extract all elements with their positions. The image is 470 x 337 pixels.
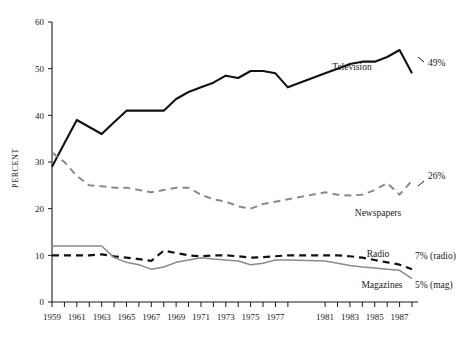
x-tick-label-1963: 1963 xyxy=(93,312,112,322)
x-tick-labels: 1959196119631965196719691971197319751977… xyxy=(43,312,409,322)
y-tick-label-60: 60 xyxy=(35,17,45,27)
data-series-group xyxy=(52,50,412,279)
y-tick-label-10: 10 xyxy=(35,251,45,261)
newspapers-leader-line xyxy=(418,181,424,186)
x-tick-label-1971: 1971 xyxy=(192,312,210,322)
radio-end-value: 7% (radio) xyxy=(415,251,456,262)
television-leader-line xyxy=(418,57,424,62)
y-tick-label-50: 50 xyxy=(35,64,45,74)
x-tick-label-1985: 1985 xyxy=(366,312,385,322)
y-tick-label-20: 20 xyxy=(35,204,45,214)
x-tick-label-1981: 1981 xyxy=(316,312,334,322)
y-tick-marks xyxy=(48,22,52,302)
x-tick-label-1965: 1965 xyxy=(117,312,136,322)
magazines-end-value: 5% (mag) xyxy=(415,280,453,291)
chart-canvas: 0102030405060 PERCENT 195919611963196519… xyxy=(0,0,470,337)
x-axis-group: 1959196119631965196719691971197319751977… xyxy=(43,302,418,322)
television-series-label: Television xyxy=(332,62,372,72)
y-axis-title: PERCENT xyxy=(11,148,20,188)
x-tick-label-1973: 1973 xyxy=(217,312,236,322)
series-line-magazines xyxy=(52,246,412,279)
media-source-line-chart: 0102030405060 PERCENT 195919611963196519… xyxy=(0,0,470,337)
series-inline-labels: TelevisionNewspapersRadioMagazines xyxy=(332,62,403,290)
x-tick-label-1983: 1983 xyxy=(341,312,360,322)
y-tick-label-40: 40 xyxy=(35,111,45,121)
x-tick-label-1987: 1987 xyxy=(391,312,410,322)
x-tick-label-1977: 1977 xyxy=(266,312,285,322)
x-tick-label-1959: 1959 xyxy=(43,312,62,322)
x-tick-marks xyxy=(52,302,412,307)
magazines-series-label: Magazines xyxy=(361,280,402,290)
television-end-value: 49% xyxy=(428,58,446,68)
y-tick-label-0: 0 xyxy=(40,297,45,307)
y-tick-label-30: 30 xyxy=(35,157,45,167)
x-tick-label-1975: 1975 xyxy=(242,312,261,322)
x-tick-label-1967: 1967 xyxy=(142,312,161,322)
y-tick-labels: 0102030405060 xyxy=(35,17,45,307)
newspapers-series-label: Newspapers xyxy=(355,208,402,218)
x-tick-label-1969: 1969 xyxy=(167,312,186,322)
radio-series-label: Radio xyxy=(367,249,390,259)
y-axis-group: 0102030405060 PERCENT xyxy=(11,17,52,307)
series-line-newspapers xyxy=(52,153,412,209)
series-end-value-labels: 49%26%7% (radio)5% (mag) xyxy=(415,57,456,291)
newspapers-end-value: 26% xyxy=(428,171,446,181)
x-tick-label-1961: 1961 xyxy=(68,312,86,322)
